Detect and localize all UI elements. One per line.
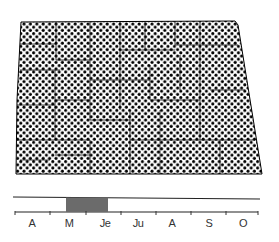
state-map xyxy=(0,0,279,185)
month-label-august: A xyxy=(169,217,176,229)
month-label-october: O xyxy=(239,217,247,229)
season-timeline: A M Je Ju A S O xyxy=(0,185,279,242)
month-label-april: A xyxy=(29,217,36,229)
timeline-top-line xyxy=(13,197,260,199)
active-period-bar xyxy=(66,198,108,212)
month-label-september: S xyxy=(206,217,213,229)
month-label-may: M xyxy=(65,217,74,229)
month-label-june: Je xyxy=(100,217,111,229)
timeline-bars xyxy=(0,185,279,242)
month-label-july: Ju xyxy=(133,217,144,229)
